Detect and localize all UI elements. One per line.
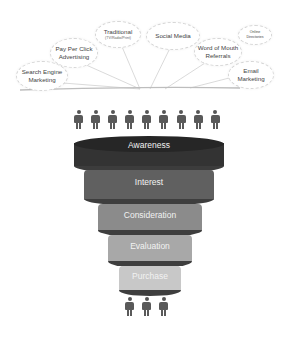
channel-email-marketing: Email Marketing (228, 61, 274, 89)
channel-online-directories: Online Directories (238, 25, 272, 45)
channel-label-line1: Search Engine (22, 68, 63, 76)
person-icon (194, 110, 203, 129)
person-icon (177, 110, 186, 129)
channel-label-line2: Advertising (59, 53, 90, 61)
channel-label-line2: (TV/Radio/Print) (105, 36, 131, 41)
person-icon (142, 297, 151, 316)
bottom-people-row (125, 297, 176, 316)
channel-pay-per-click: Pay Per Click Advertising (50, 38, 98, 68)
stage-label: Consideration (98, 210, 202, 220)
channel-label-line1: Traditional (104, 28, 133, 36)
channel-label-line2: Marketing (237, 75, 264, 83)
channel-traditional: Traditional (TV/Radio/Print) (95, 21, 141, 48)
channel-label-line1: Social Media (155, 32, 190, 40)
person-icon (91, 110, 100, 129)
person-icon (159, 110, 168, 129)
top-people-row (74, 110, 228, 129)
person-icon (125, 297, 134, 316)
funnel-stage-evaluation: Evaluation (108, 235, 192, 268)
person-icon (211, 110, 220, 129)
stage-label: Interest (84, 177, 214, 187)
person-icon (125, 110, 134, 129)
person-icon (108, 110, 117, 129)
channel-label-line2: Marketing (28, 76, 55, 84)
channel-label-line1: Word of Mouth (198, 44, 238, 52)
person-icon (74, 110, 83, 129)
funnel-stage-purchase: Purchase (119, 266, 181, 296)
stage-label: Purchase (119, 271, 181, 281)
funnel-stage-consideration: Consideration (98, 204, 202, 237)
channel-social-media: Social Media (146, 22, 200, 50)
person-icon (142, 110, 151, 129)
person-icon (159, 297, 168, 316)
funnel-stage-interest: Interest (84, 170, 214, 206)
stage-label: Evaluation (108, 241, 192, 251)
stage-label: Awareness (74, 140, 224, 150)
funnel-stage-awareness: Awareness (74, 136, 224, 174)
channel-label-line1: Email (243, 67, 258, 75)
channel-word-of-mouth: Word of Mouth Referrals (194, 38, 242, 66)
channel-label-line2: Directories (246, 35, 263, 40)
channel-label-line2: Referrals (205, 52, 230, 60)
channel-label-line1: Pay Per Click (55, 45, 92, 53)
